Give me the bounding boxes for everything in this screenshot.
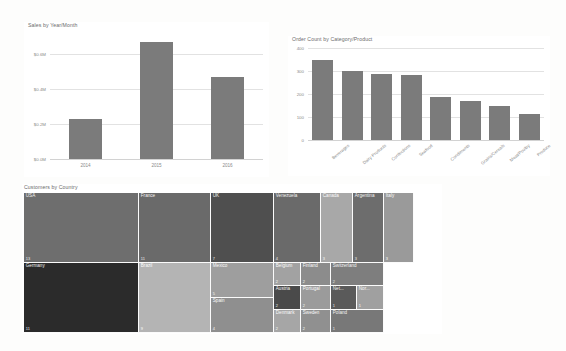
- treemap-cell-value: 2: [303, 304, 305, 308]
- bar[interactable]: [312, 60, 333, 141]
- x-axis-line: [308, 140, 544, 141]
- treemap-cell-value: 2: [276, 327, 278, 331]
- treemap-cell[interactable]: Canada3: [321, 193, 353, 263]
- x-axis-tick-label: Seafood: [418, 143, 434, 157]
- treemap-cell-label: Denmark: [276, 311, 295, 316]
- treemap-cell-label: Poland: [333, 311, 347, 316]
- treemap-cell[interactable]: Mexico5: [211, 263, 274, 298]
- treemap-cell-label: USA: [26, 194, 35, 199]
- visual-customers-by-country[interactable]: Customers by Country USA13France11UK7Ven…: [22, 184, 442, 334]
- bar[interactable]: [211, 77, 244, 159]
- treemap-cell-label: UK: [213, 194, 219, 199]
- treemap-cell[interactable]: Germany11: [24, 263, 139, 333]
- treemap-cell-value: 3: [386, 257, 388, 261]
- treemap-cell-value: 4: [276, 257, 278, 261]
- treemap-cell-value: 4: [213, 327, 215, 331]
- x-axis-tick-label: Condiments: [449, 143, 470, 162]
- treemap-cell[interactable]: Argentina3: [353, 193, 384, 263]
- treemap-cell-label: Italy: [386, 194, 394, 199]
- treemap-cell-value: 1: [333, 304, 335, 308]
- treemap-cell[interactable]: France11: [139, 193, 211, 263]
- treemap-cell[interactable]: Portugal2: [301, 286, 331, 310]
- treemap-cell[interactable]: Belgium2: [274, 263, 301, 286]
- treemap-cell-value: 2: [276, 304, 278, 308]
- bar[interactable]: [69, 119, 102, 159]
- treemap-cell-label: Germany: [26, 264, 45, 269]
- x-axis-tick-label: Meat/Poultry: [509, 143, 531, 163]
- treemap-cell-value: 11: [26, 327, 30, 331]
- treemap-cell-value: 7: [213, 257, 215, 261]
- treemap-cell[interactable]: Venezuela4: [274, 193, 321, 263]
- x-axis-tick-label: Beverages: [331, 143, 350, 160]
- treemap-cell-label: Finland: [303, 264, 318, 269]
- treemap-cell[interactable]: Nor...1: [357, 286, 384, 310]
- dashboard-page: Sales by Year/Month $0.0M$0.2M$0.4M$0.6M…: [0, 0, 566, 351]
- treemap-cell-value: 9: [141, 327, 143, 331]
- x-axis-tick-label: 2016: [192, 163, 263, 168]
- treemap-cell[interactable]: Austria2: [274, 286, 301, 310]
- treemap-cell-label: Argentina: [355, 194, 375, 199]
- treemap-title: Customers by Country: [24, 184, 78, 190]
- bar[interactable]: [489, 106, 510, 141]
- treemap-cell-value: 11: [141, 257, 145, 261]
- treemap-cell-value: 5: [213, 292, 215, 296]
- treemap-cell[interactable]: USA13: [24, 193, 139, 263]
- treemap-cell[interactable]: Brazil9: [139, 263, 211, 333]
- treemap-cell[interactable]: Poland1: [331, 310, 384, 333]
- y-axis-tick-label: 400: [288, 46, 304, 51]
- gridline: [308, 48, 544, 49]
- treemap-cell[interactable]: UK7: [211, 193, 274, 263]
- treemap-cell-label: Mexico: [213, 264, 228, 269]
- y-axis-tick-label: 100: [288, 115, 304, 120]
- treemap-cell-value: 13: [26, 257, 30, 261]
- bar[interactable]: [519, 114, 540, 140]
- treemap-cell-label: Belgium: [276, 264, 293, 269]
- visual-order-count-by-category[interactable]: Order Count by Category/Product 01002003…: [288, 36, 550, 176]
- y-axis-tick-label: $0.2M: [24, 121, 46, 126]
- treemap-cell[interactable]: Spain4: [211, 298, 274, 333]
- treemap-canvas: USA13France11UK7Venezuela4Canada3Argenti…: [24, 193, 442, 333]
- treemap-cell-value: 2: [303, 280, 305, 284]
- x-axis-line: [50, 159, 263, 160]
- x-axis-tick-label: 2015: [121, 163, 192, 168]
- treemap-cell-label: Nor...: [359, 287, 370, 292]
- visual-sales-by-year[interactable]: Sales by Year/Month $0.0M$0.2M$0.4M$0.6M…: [24, 22, 269, 177]
- treemap-cell[interactable]: Switzerland2: [331, 263, 384, 286]
- bar[interactable]: [460, 101, 481, 140]
- treemap-cell-label: Portugal: [303, 287, 320, 292]
- treemap-cell-value: 2: [333, 280, 335, 284]
- y-axis-tick-label: 200: [288, 92, 304, 97]
- treemap-cell-value: 2: [276, 280, 278, 284]
- order-count-chart-plot: 0100200300400BeveragesDairy ProductsConf…: [288, 36, 550, 176]
- bar[interactable]: [401, 75, 422, 140]
- treemap-cell[interactable]: Denmark2: [274, 310, 301, 333]
- treemap-cell[interactable]: Sweden2: [301, 310, 331, 333]
- x-axis-tick-label: Dairy Products: [362, 143, 387, 165]
- y-axis-tick-label: $0.6M: [24, 51, 46, 56]
- treemap-cell-label: Venezuela: [276, 194, 297, 199]
- treemap-cell[interactable]: Finland2: [301, 263, 331, 286]
- bar[interactable]: [371, 74, 392, 140]
- treemap-cell-value: 2: [303, 327, 305, 331]
- sales-chart-plot: $0.0M$0.2M$0.4M$0.6M201420152016: [24, 22, 269, 177]
- bar[interactable]: [140, 42, 173, 159]
- y-axis-tick-label: $0.0M: [24, 157, 46, 162]
- bar[interactable]: [430, 97, 451, 140]
- treemap-cell-label: Canada: [323, 194, 339, 199]
- bar[interactable]: [342, 71, 363, 140]
- treemap-cell-value: 1: [359, 304, 361, 308]
- treemap-cell-value: 3: [355, 257, 357, 261]
- treemap-cell-label: Switzerland: [333, 264, 357, 269]
- treemap-cell-label: Spain: [213, 299, 225, 304]
- y-axis-tick-label: $0.4M: [24, 86, 46, 91]
- x-axis-tick-label: Produce: [536, 143, 552, 157]
- x-axis-tick-label: Grains/Cereals: [480, 143, 506, 166]
- treemap-cell[interactable]: Italy3: [384, 193, 414, 263]
- treemap-cell[interactable]: Net...1: [331, 286, 357, 310]
- treemap-cell-value: 1: [333, 327, 335, 331]
- treemap-cell-label: Austria: [276, 287, 290, 292]
- x-axis-tick-label: 2014: [50, 163, 121, 168]
- treemap-cell-label: Net...: [333, 287, 344, 292]
- treemap-cell-value: 3: [323, 257, 325, 261]
- x-axis-tick-label: Confections: [390, 143, 411, 162]
